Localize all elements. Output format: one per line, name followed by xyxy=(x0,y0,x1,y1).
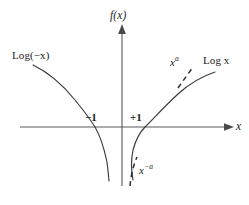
y-axis-arrowhead xyxy=(118,24,126,34)
plot-canvas xyxy=(0,0,249,205)
x-axis-arrowhead xyxy=(224,123,234,131)
curve-label-log-negative-x: Log(−x) xyxy=(12,50,49,61)
curve-x-power-a xyxy=(178,67,193,88)
x-power-negative-a-exponent: −a xyxy=(144,162,153,171)
curve-label-x-power-negative-a: x−a xyxy=(139,163,153,176)
x-tick-label-plus-one: +1 xyxy=(130,112,142,123)
curve-label-log-x: Log x xyxy=(203,55,229,66)
curve-label-x-power-a: xa xyxy=(170,55,179,68)
function-graph-figure: f(x) x −1 +1 Log(−x) Log x xa x−a xyxy=(0,0,249,205)
x-tick-label-minus-one: −1 xyxy=(85,112,97,123)
x-power-a-exponent: a xyxy=(175,54,179,63)
y-axis-label: f(x) xyxy=(110,10,126,22)
x-axis-label: x xyxy=(236,121,241,133)
curve-log-negative-x xyxy=(33,65,109,181)
